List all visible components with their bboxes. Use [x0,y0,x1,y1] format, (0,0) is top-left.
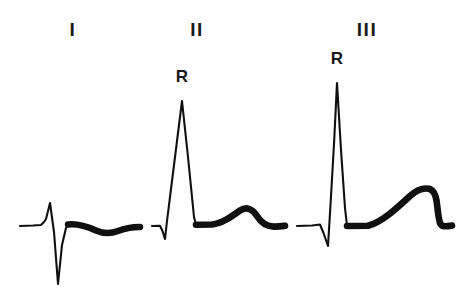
lead-3-t-wave-path [347,188,452,226]
lead-label-3: III [357,20,377,39]
lead-1-t-wave-path [68,224,140,233]
lead-label-2: II [190,20,204,39]
r-wave-label-lead-3: R [331,50,343,67]
lead-2-t-wave-path [196,208,285,226]
r-wave-label-lead-2: R [176,68,188,85]
lead-2-qrs-path [152,101,196,239]
lead-1-qrs-path [20,203,68,284]
lead-3-qrs-path [297,83,347,246]
ecg-traces-svg [0,0,465,298]
lead-label-1: I [70,20,77,39]
ecg-figure: I II III R R [0,0,465,298]
